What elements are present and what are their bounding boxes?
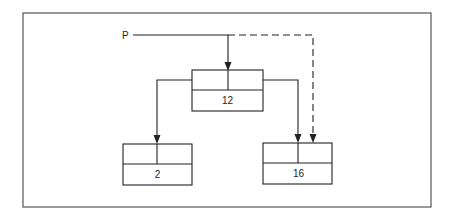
node-right-value: 16 xyxy=(293,168,305,179)
edge-p-to-root xyxy=(133,35,232,71)
arrow-head-icon xyxy=(295,134,302,143)
node-root-value: 12 xyxy=(222,95,234,106)
edge-root-to-left xyxy=(154,80,193,144)
edge-root-to-right xyxy=(263,80,302,143)
tree-diagram: P 12 2 16 xyxy=(0,0,450,217)
pointer-label-p: P xyxy=(122,30,129,41)
arrow-head-icon xyxy=(154,135,161,144)
arrow-head-icon xyxy=(310,134,317,143)
node-right: 16 xyxy=(263,143,332,184)
node-left: 2 xyxy=(123,144,192,185)
node-left-value: 2 xyxy=(155,169,161,180)
node-root: 12 xyxy=(192,70,263,111)
